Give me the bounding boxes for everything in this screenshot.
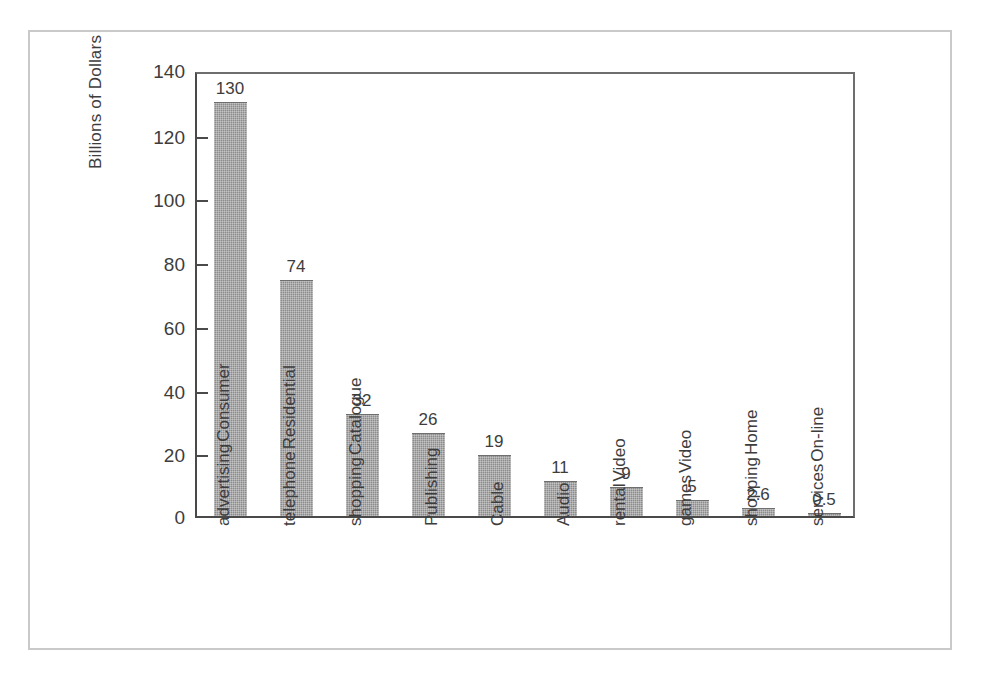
bar-value-label: 74: [287, 257, 306, 276]
x-axis-category-line: Video: [676, 430, 695, 473]
y-axis-tick: 100: [197, 200, 208, 202]
x-axis-category-text: Videogames: [676, 408, 695, 526]
y-axis-tick-label: 40: [164, 382, 185, 404]
y-axis-tick: 80: [197, 264, 208, 266]
x-axis-category-line: Catalogue: [346, 377, 365, 455]
x-axis-category-line: Cable: [488, 482, 507, 526]
x-axis-category-text: Publishing: [422, 408, 441, 526]
y-axis-tick-label: 60: [164, 318, 185, 340]
x-axis-category-text: On-lineservices: [808, 408, 827, 526]
y-axis-tick-label: 100: [153, 190, 185, 212]
x-axis-category-text: Homeshopping: [742, 408, 761, 526]
x-axis-category-line: On-line: [808, 407, 827, 462]
x-axis-category-line: advertising: [214, 444, 233, 526]
x-axis-category-text: Catalogueshopping: [346, 408, 365, 526]
x-axis-category-line: shopping: [742, 457, 761, 526]
y-axis-tick-label: 140: [153, 61, 185, 83]
x-axis-category-line: rental: [610, 483, 629, 526]
bar-value-label: 130: [216, 79, 244, 98]
x-axis-category-line: games: [676, 475, 695, 526]
y-axis-tick: 120: [197, 137, 208, 139]
x-axis-category-text: Videorental: [610, 408, 629, 526]
y-axis-tick-label: 0: [174, 507, 185, 529]
y-axis-tick: 60: [197, 328, 208, 330]
x-axis-category-text: Audio: [554, 408, 573, 526]
x-axis-category-text: Consumeradvertising: [214, 408, 233, 526]
x-axis-category-line: telephone: [280, 451, 299, 526]
y-axis-title: Billions of Dollars: [86, 0, 112, 222]
x-axis-category-line: Audio: [554, 483, 573, 526]
x-axis-category-line: Consumer: [214, 363, 233, 441]
x-axis-category-line: Video: [610, 438, 629, 481]
x-axis-category-line: shopping: [346, 457, 365, 526]
x-axis-category-text: Cable: [488, 408, 507, 526]
y-axis-tick-label: 80: [164, 254, 185, 276]
x-axis-category-line: services: [808, 464, 827, 526]
y-axis-tick-label: 20: [164, 445, 185, 467]
x-axis-category-text: Residentialtelephone: [280, 408, 299, 526]
y-axis-tick-label: 120: [153, 127, 185, 149]
chart-page: Billions of Dollars 020406080100120140 1…: [0, 0, 986, 680]
x-axis-category-line: Home: [742, 410, 761, 455]
x-axis-category-line: Publishing: [422, 448, 441, 526]
bar-chart-figure: Billions of Dollars 020406080100120140 1…: [0, 0, 986, 680]
y-axis-tick: 20: [197, 455, 208, 457]
x-axis-category-line: Residential: [280, 365, 299, 449]
y-axis-tick: 40: [197, 392, 208, 394]
